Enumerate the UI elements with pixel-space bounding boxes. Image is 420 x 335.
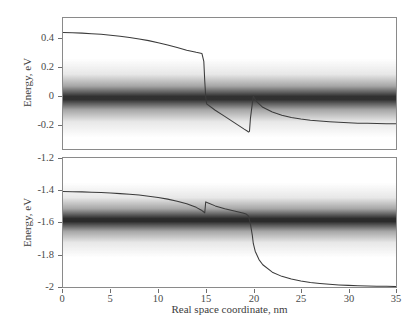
lower-ytick-mark-4 [58,287,62,288]
upper-ytick-label-0: 0.4 [16,33,54,44]
x-axis-title: Real space coordinate, nm [62,304,397,315]
lower-ytick-mark-3 [58,255,62,256]
upper-density-band [63,18,396,149]
xtick-label-7: 35 [391,294,402,305]
upper-ytick-mark-1 [58,67,62,68]
xtick-label-6: 30 [344,294,355,305]
upper-ytick-mark-2 [58,96,62,97]
lower-panel-plot-area [62,157,397,288]
lower-density-band [63,183,396,258]
lower-panel-y-axis-title: Energy, eV [22,188,33,258]
xtick-label-0: 0 [59,294,64,305]
lower-panel-canvas [63,158,396,287]
xtick-label-5: 25 [296,294,307,305]
lower-ytick-label-4: -2 [16,282,54,293]
upper-ytick-mark-3 [58,125,62,126]
upper-ytick-label-3: -0.2 [16,120,54,131]
xtick-label-1: 5 [107,294,112,305]
lower-ytick-mark-1 [58,190,62,191]
figure-container: 0.4 0.2 0 -0.2 Energy, eV [0,0,420,335]
lower-ytick-mark-0 [58,158,62,159]
upper-panel-canvas [63,18,396,149]
xtick-label-2: 10 [153,294,164,305]
lower-ytick-mark-2 [58,222,62,223]
upper-panel-plot-area [62,17,397,150]
upper-ytick-mark-0 [58,38,62,39]
lower-ytick-label-0: -1.2 [16,153,54,164]
upper-panel-y-axis-title: Energy, eV [22,48,33,118]
